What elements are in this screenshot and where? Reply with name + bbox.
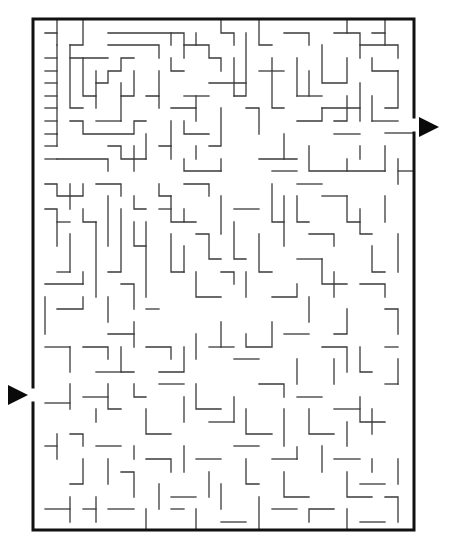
maze-wall [134,222,146,246]
maze-wall [146,459,171,472]
maze-wall [45,33,57,45]
maze-wall [70,20,83,45]
maze-wall [108,146,146,159]
maze-border [33,19,414,387]
maze-wall [272,184,284,222]
maze-wall [159,146,171,159]
maze-wall [121,284,134,309]
maze-wall [297,108,322,121]
maze-wall [171,108,196,121]
maze-wall [360,209,372,234]
maze-wall [96,58,134,83]
maze-wall [272,284,297,297]
maze-wall [284,33,309,45]
maze-wall [334,309,347,334]
maze-wall [309,409,334,434]
maze-wall [284,472,309,497]
entrance-arrow-icon [8,385,28,405]
maze-wall [146,347,171,359]
maze-wall [372,33,385,45]
maze-wall [360,347,372,372]
maze-wall [121,347,134,372]
maze-wall [184,45,221,71]
maze-wall [372,58,398,71]
maze-wall [121,71,134,96]
maze-wall [108,384,121,409]
maze-wall [83,347,108,359]
maze-wall [309,234,334,246]
maze-wall [108,209,121,272]
maze-wall [360,45,398,58]
maze-wall [196,234,221,259]
maze-wall [70,434,83,446]
maze-wall [171,58,184,71]
maze-wall [385,71,398,108]
maze-wall [272,58,284,108]
maze-border [33,133,414,530]
maze-wall [297,196,309,222]
maze-wall [385,309,398,334]
maze-wall [209,108,221,146]
maze-wall [334,33,360,58]
maze-wall [83,209,96,222]
maze-wall [83,58,96,96]
maze-wall [70,45,83,108]
maze-wall [146,96,159,108]
maze-wall [309,146,347,171]
maze-wall [70,121,146,134]
maze-wall [234,33,246,96]
maze-wall [221,272,234,284]
maze-wall [372,246,385,272]
maze-wall [184,159,221,171]
maze-wall [134,384,146,397]
maze-wall [108,322,134,334]
maze-wall [70,459,83,484]
maze-wall [246,334,271,347]
maze-wall [184,121,209,134]
maze-wall [96,184,121,196]
maze-wall [246,108,259,134]
maze-wall [171,234,184,272]
maze-wall [221,20,234,45]
exit-arrow-icon [419,117,439,137]
maze-wall [259,234,272,272]
maze-wall [347,196,360,222]
maze-wall [196,384,221,409]
maze-wall [246,459,259,484]
maze-wall [259,384,284,397]
maze-wall [134,196,146,209]
maze-wall [57,159,108,171]
maze-wall [45,209,57,246]
maze-wall [246,409,272,434]
maze-wall [234,222,246,259]
maze-wall [57,297,83,309]
maze-wall [259,20,272,45]
maze-wall [146,409,171,434]
maze-wall [184,184,209,196]
maze-wall [322,45,347,83]
maze-wall [360,284,385,297]
maze-wall [385,497,398,522]
maze-wall [108,45,159,58]
maze-wall [121,472,134,497]
maze-wall [45,184,83,196]
maze-wall [196,272,221,297]
maze-canvas [0,0,456,550]
maze-wall [309,509,334,522]
maze-wall [159,184,171,196]
maze-walls [45,20,414,530]
